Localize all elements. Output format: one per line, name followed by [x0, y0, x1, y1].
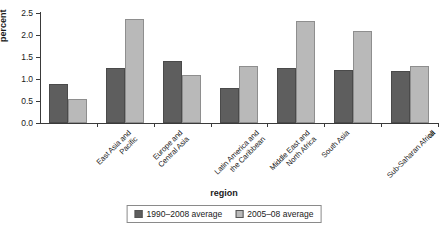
bar-group: [324, 13, 381, 123]
bar-group: [97, 13, 154, 123]
bar-series-1: [239, 66, 258, 123]
x-category-label: Europe andCentral Asia: [151, 129, 191, 169]
bar-group: [154, 13, 211, 123]
y-tick-label: 1.0: [0, 74, 33, 84]
bar-series-0: [220, 88, 239, 123]
bar-series-1: [410, 66, 429, 123]
legend-label-series-0: 1990–2008 average: [147, 209, 223, 219]
y-tick-label: 2.0: [0, 30, 33, 40]
bar-series-1: [182, 75, 201, 123]
y-tick-label: 1.5: [0, 52, 33, 62]
bar-chart-figure: percent 0.00.51.01.52.02.5 East Asia and…: [0, 0, 448, 240]
x-category-label: Middle East andNorth Africa: [269, 129, 319, 179]
legend-swatch-icon-series-0: [135, 210, 143, 218]
bar-series-1: [296, 21, 315, 123]
bar-series-0: [163, 61, 182, 123]
y-tick-label: 2.5: [0, 8, 33, 18]
x-tick-mark: [438, 123, 439, 127]
x-tick-mark: [154, 123, 155, 127]
bar-series-0: [391, 71, 410, 123]
x-axis-line: [40, 123, 438, 124]
x-tick-mark: [211, 123, 212, 127]
bar-group: [211, 13, 268, 123]
x-axis-label: region: [0, 188, 448, 198]
x-tick-mark: [324, 123, 325, 127]
y-tick-label: 0.5: [0, 96, 33, 106]
x-category-label: East Asia andPacific: [96, 129, 140, 173]
y-tick-mark: [36, 123, 40, 124]
bar-series-1: [353, 31, 372, 123]
bar-series-0: [106, 68, 125, 123]
x-category-label: South Asia: [320, 129, 351, 160]
bar-series-1: [125, 19, 144, 123]
chart-legend: 1990–2008 average 2005–08 average: [127, 205, 322, 223]
bar-series-0: [277, 68, 296, 123]
y-tick-label: 0.0: [0, 118, 33, 128]
x-category-label: Latin America andthe Caribbean: [213, 129, 267, 183]
bar-series-1: [68, 99, 87, 123]
bar-group: [267, 13, 324, 123]
bar-group: [381, 13, 438, 123]
bar-group: [40, 13, 97, 123]
legend-item-series-0: 1990–2008 average: [135, 209, 223, 219]
x-tick-mark: [381, 123, 382, 127]
bar-series-0: [334, 70, 353, 123]
legend-label-series-1: 2005–08 average: [247, 209, 313, 219]
plot-area: [40, 13, 438, 123]
bar-series-0: [49, 84, 68, 123]
x-tick-mark: [267, 123, 268, 127]
legend-item-series-1: 2005–08 average: [235, 209, 313, 219]
x-tick-mark: [97, 123, 98, 127]
legend-swatch-icon-series-1: [235, 210, 243, 218]
